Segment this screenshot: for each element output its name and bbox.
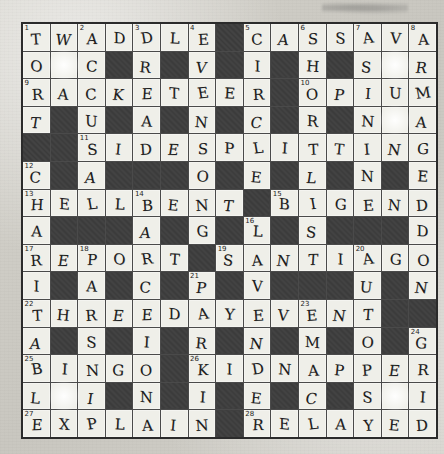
letter-cell[interactable]: D [409, 217, 437, 245]
letter-cell[interactable]: E [216, 79, 244, 107]
letter-cell[interactable]: H [298, 51, 326, 79]
letter-cell[interactable]: S [298, 217, 326, 245]
letter-cell[interactable]: E [381, 410, 409, 438]
letter-cell[interactable]: T [298, 244, 326, 272]
letter-cell[interactable]: N [78, 355, 106, 383]
letter-cell[interactable]: E [188, 79, 216, 107]
letter-cell[interactable]: R [133, 51, 161, 79]
letter-cell[interactable]: L [105, 189, 133, 217]
letter-cell[interactable]: N [381, 134, 409, 162]
crossword-grid[interactable]: 1TW2AD3DL4E5CA6SS7AV8AOCRVIHSR9RACKETEER… [21, 22, 438, 439]
letter-cell[interactable]: 22T [22, 299, 50, 327]
letter-cell[interactable]: N [243, 327, 271, 355]
letter-cell[interactable]: A [78, 272, 106, 300]
letter-cell[interactable]: 18P [78, 244, 106, 272]
letter-cell[interactable]: C [133, 272, 161, 300]
letter-cell[interactable]: L [105, 410, 133, 438]
letter-cell[interactable]: I [105, 134, 133, 162]
letter-cell[interactable]: I [188, 382, 216, 410]
letter-cell[interactable]: V [243, 272, 271, 300]
letter-cell[interactable]: I [160, 410, 188, 438]
letter-cell[interactable]: E [243, 161, 271, 189]
letter-cell[interactable]: E [409, 161, 437, 189]
letter-cell[interactable]: D [160, 299, 188, 327]
letter-cell[interactable]: C [78, 79, 106, 107]
letter-cell[interactable]: K [105, 79, 133, 107]
letter-cell[interactable]: T [326, 134, 354, 162]
letter-cell[interactable]: M [298, 327, 326, 355]
letter-cell[interactable]: N [188, 189, 216, 217]
letter-cell[interactable]: 19S [216, 244, 244, 272]
letter-cell[interactable]: A [22, 217, 50, 245]
letter-cell[interactable]: L [298, 161, 326, 189]
letter-cell[interactable]: T [354, 299, 382, 327]
letter-cell[interactable]: D [133, 134, 161, 162]
letter-cell[interactable]: T [216, 189, 244, 217]
letter-cell[interactable]: I [78, 382, 106, 410]
letter-cell[interactable]: N [381, 189, 409, 217]
letter-cell[interactable]: O [409, 244, 437, 272]
letter-cell[interactable]: H [50, 299, 78, 327]
letter-cell[interactable]: 6S [298, 23, 326, 51]
letter-cell[interactable]: A [133, 106, 161, 134]
letter-cell[interactable]: I [354, 79, 382, 107]
letter-cell[interactable]: D [409, 410, 437, 438]
letter-cell[interactable]: N [188, 106, 216, 134]
letter-cell[interactable]: E [133, 299, 161, 327]
letter-cell[interactable]: T [160, 79, 188, 107]
letter-cell[interactable]: I [216, 355, 244, 383]
letter-cell[interactable]: T [298, 134, 326, 162]
letter-cell[interactable]: P [354, 355, 382, 383]
letter-cell[interactable]: P [326, 355, 354, 383]
letter-cell[interactable]: G [188, 217, 216, 245]
letter-cell[interactable]: N [354, 106, 382, 134]
letter-cell[interactable]: 17R [22, 244, 50, 272]
letter-cell[interactable]: A [326, 410, 354, 438]
letter-cell[interactable]: R [78, 299, 106, 327]
letter-cell[interactable]: D [243, 355, 271, 383]
letter-cell[interactable]: A [188, 299, 216, 327]
letter-cell[interactable]: 16L [243, 217, 271, 245]
letter-cell[interactable]: U [354, 272, 382, 300]
letter-cell[interactable]: N [409, 272, 437, 300]
letter-cell[interactable]: 12C [22, 161, 50, 189]
letter-cell[interactable]: 21P [188, 272, 216, 300]
letter-cell[interactable]: M [409, 79, 437, 107]
letter-cell[interactable]: Y [354, 410, 382, 438]
letter-cell[interactable]: C [78, 51, 106, 79]
letter-cell[interactable]: E [50, 244, 78, 272]
letter-cell[interactable]: 5C [243, 23, 271, 51]
letter-cell[interactable]: E [133, 79, 161, 107]
letter-cell[interactable]: O [188, 161, 216, 189]
letter-cell[interactable]: G [105, 355, 133, 383]
letter-cell[interactable]: E [105, 299, 133, 327]
letter-cell[interactable]: 28R [243, 410, 271, 438]
letter-cell[interactable]: O [105, 244, 133, 272]
letter-cell[interactable]: D [409, 189, 437, 217]
letter-cell[interactable]: E [50, 189, 78, 217]
letter-cell[interactable]: E [354, 189, 382, 217]
letter-cell[interactable]: S [354, 51, 382, 79]
letter-cell[interactable]: Y [216, 299, 244, 327]
letter-cell[interactable]: G [381, 244, 409, 272]
letter-cell[interactable]: A [243, 244, 271, 272]
letter-cell[interactable]: V [188, 51, 216, 79]
letter-cell[interactable]: I [271, 134, 299, 162]
letter-cell[interactable]: R [133, 244, 161, 272]
letter-cell[interactable]: 27E [22, 410, 50, 438]
letter-cell[interactable]: 26K [188, 355, 216, 383]
letter-cell[interactable]: E [243, 299, 271, 327]
letter-cell[interactable]: 25B [22, 355, 50, 383]
letter-cell[interactable]: L [298, 410, 326, 438]
letter-cell[interactable]: L [243, 134, 271, 162]
letter-cell[interactable] [50, 382, 78, 410]
letter-cell[interactable]: C [243, 106, 271, 134]
letter-cell[interactable]: O [133, 355, 161, 383]
letter-cell[interactable]: A [78, 161, 106, 189]
letter-cell[interactable]: R [188, 327, 216, 355]
letter-cell[interactable]: 8A [409, 23, 437, 51]
letter-cell[interactable]: A [409, 106, 437, 134]
letter-cell[interactable]: 9R [22, 79, 50, 107]
letter-cell[interactable]: D [105, 23, 133, 51]
letter-cell[interactable]: A [298, 355, 326, 383]
